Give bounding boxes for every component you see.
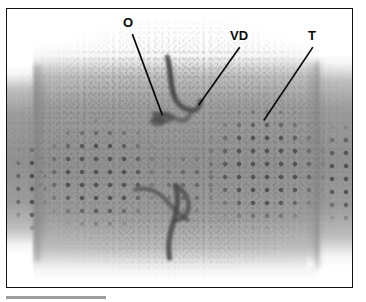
figure-panel: O VD T xyxy=(0,0,366,302)
annotation-layer: O VD T xyxy=(0,0,366,302)
annotation-label-t: T xyxy=(308,29,316,42)
annotation-label-o: O xyxy=(123,16,133,29)
scale-bar xyxy=(6,296,106,299)
annotation-label-vd: VD xyxy=(230,29,248,42)
